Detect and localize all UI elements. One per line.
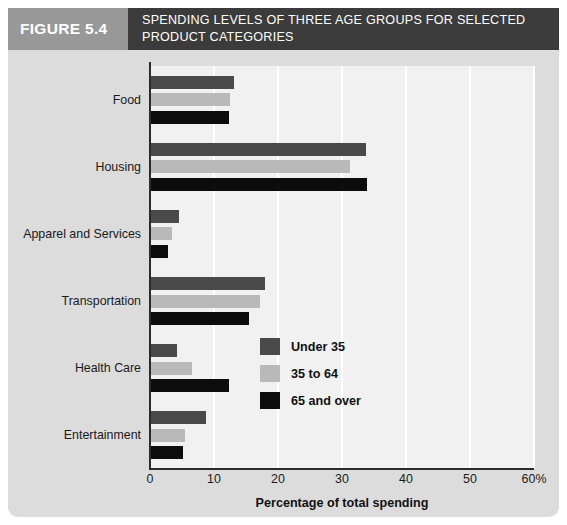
y-axis-line xyxy=(149,62,151,469)
bar xyxy=(150,295,260,308)
bar xyxy=(150,312,249,325)
legend-label-under-35: Under 35 xyxy=(291,340,345,354)
category-label: Transportation xyxy=(62,295,141,307)
x-axis-tick-label: 60% xyxy=(522,472,547,486)
bar xyxy=(150,160,350,173)
figure-title: SPENDING LEVELS OF THREE AGE GROUPS FOR … xyxy=(128,8,559,50)
bar-group: Transportation xyxy=(150,277,534,325)
category-label: Entertainment xyxy=(64,429,141,441)
bar xyxy=(150,245,168,258)
category-label: Health Care xyxy=(75,362,141,374)
x-axis-title: Percentage of total spending xyxy=(150,496,534,510)
x-axis-tick-label: 50 xyxy=(463,472,477,486)
bar xyxy=(150,411,206,424)
legend-item-35-to-64: 35 to 64 xyxy=(260,363,361,384)
legend-swatch-icon-under-35 xyxy=(260,338,280,355)
figure-header: FIGURE 5.4 SPENDING LEVELS OF THREE AGE … xyxy=(8,8,559,50)
bar xyxy=(150,429,185,442)
bar-group: Food xyxy=(150,76,534,124)
bar xyxy=(150,143,366,156)
bar xyxy=(150,362,192,375)
bar xyxy=(150,344,177,357)
x-axis-tick-label: 0 xyxy=(147,472,154,486)
legend-swatch-icon-65-and-over xyxy=(260,392,280,409)
legend-item-65-and-over: 65 and over xyxy=(260,390,361,411)
figure-body-panel: FoodHousingApparel and ServicesTransport… xyxy=(8,50,559,517)
bar xyxy=(150,227,172,240)
legend-item-under-35: Under 35 xyxy=(260,336,361,357)
x-axis-tick-label: 40 xyxy=(399,472,413,486)
gridline xyxy=(213,66,215,469)
legend-label-35-to-64: 35 to 64 xyxy=(291,367,338,381)
x-axis-tick-label: 30 xyxy=(335,472,349,486)
gridline xyxy=(533,66,535,469)
category-label: Food xyxy=(113,94,141,106)
figure-container: FIGURE 5.4 SPENDING LEVELS OF THREE AGE … xyxy=(0,0,567,525)
x-axis-tick-label: 20 xyxy=(271,472,285,486)
bar-group: Entertainment xyxy=(150,411,534,459)
bar xyxy=(150,178,367,191)
x-axis-line xyxy=(149,468,534,470)
chart-legend: Under 35 35 to 64 65 and over xyxy=(260,336,361,417)
figure-number-label: FIGURE 5.4 xyxy=(8,8,128,50)
bar xyxy=(150,210,179,223)
x-axis-tick-label: 10 xyxy=(207,472,221,486)
bar xyxy=(150,76,234,89)
legend-swatch-icon-35-to-64 xyxy=(260,365,280,382)
bar xyxy=(150,111,229,124)
gridline xyxy=(405,66,407,469)
category-label: Apparel and Services xyxy=(23,228,141,240)
bar xyxy=(150,93,230,106)
bar xyxy=(150,446,183,459)
bar xyxy=(150,379,229,392)
bar-group: Housing xyxy=(150,143,534,191)
bar-group: Apparel and Services xyxy=(150,210,534,258)
gridline xyxy=(469,66,471,469)
bar xyxy=(150,277,265,290)
category-label: Housing xyxy=(96,161,141,173)
legend-label-65-and-over: 65 and over xyxy=(291,394,361,408)
